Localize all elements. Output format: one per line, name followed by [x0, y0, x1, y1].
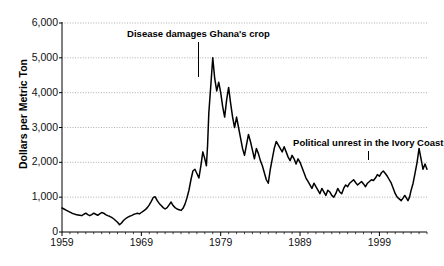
annotation-pointer: [368, 151, 369, 159]
x-tick-label: 1969: [130, 236, 153, 248]
x-tick-label: 1959: [50, 236, 73, 248]
annotation-pointer: [198, 42, 199, 77]
y-tick-label: 3,000: [8, 121, 58, 133]
x-tick-label: 1989: [288, 236, 311, 248]
x-tick-label: 1979: [209, 236, 232, 248]
annotation-label: Disease damages Ghana's crop: [127, 28, 270, 39]
y-tick-label: 1,000: [8, 190, 58, 202]
y-tick-label: 4,000: [8, 86, 58, 98]
x-tick-label: 1999: [368, 236, 391, 248]
y-tick-label: 2,000: [8, 155, 58, 167]
y-tick-label: 6,000: [8, 16, 58, 28]
annotation-label: Political unrest in the Ivory Coast: [293, 137, 443, 148]
y-tick-label: 5,000: [8, 51, 58, 63]
